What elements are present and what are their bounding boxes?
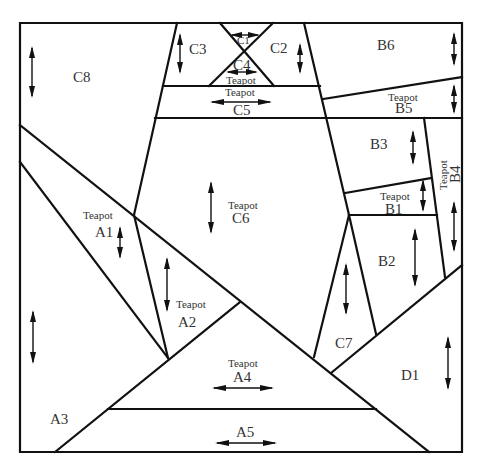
teapot-label-a4: Teapot <box>228 357 258 369</box>
piece-label-a2: A2 <box>178 314 196 330</box>
piece-label-b3: B3 <box>370 136 388 152</box>
piece-label-a3: A3 <box>50 411 68 427</box>
piece-label-c3: C3 <box>189 41 207 57</box>
grain-arrow-b4 <box>451 201 457 252</box>
teapot-label-c5: Teapot <box>225 86 255 98</box>
grain-arrow-d1 <box>445 336 451 390</box>
d1-top-edge <box>331 265 462 373</box>
teapot-label-a1: Teapot <box>83 209 113 221</box>
piece-label-c5: C5 <box>233 102 251 118</box>
piece-label-a5: A5 <box>236 424 254 440</box>
a3-a4-diagonal <box>55 302 240 452</box>
grain-arrow-a3 <box>30 310 36 364</box>
piece-label-c4: C4 <box>233 57 251 73</box>
piece-label-c6: C6 <box>232 210 250 226</box>
grain-arrow-a5 <box>215 440 277 446</box>
grain-arrow-b6 <box>451 32 457 66</box>
teapot-label-c4: Teapot <box>226 74 256 86</box>
piece-label-c2: C2 <box>270 40 288 56</box>
grain-arrow-c6 <box>208 181 214 234</box>
piece-label-a1: A1 <box>95 224 113 240</box>
piece-label-d1: D1 <box>401 367 419 383</box>
piece-label-b6: B6 <box>377 37 395 53</box>
a1-c6-diagonal <box>20 125 429 452</box>
grain-arrow-b5 <box>451 84 457 114</box>
grain-arrow-a4 <box>212 385 274 391</box>
grain-arrow-c8 <box>29 46 35 98</box>
piece-label-b1: B1 <box>385 201 403 217</box>
piece-label-c7: C7 <box>335 335 353 351</box>
grain-arrow-c3 <box>177 33 183 74</box>
piece-label-c8: C8 <box>73 69 91 85</box>
c7-right-edge <box>349 215 376 334</box>
grain-arrow-b3 <box>410 130 416 165</box>
piece-label-b5: B5 <box>395 100 413 116</box>
b4-left-edge <box>424 118 445 277</box>
grain-arrow-b2 <box>412 228 418 287</box>
cutting-diagram: C8 C3 C1 C2 C4 Teapot Teapot C5 Teapot C… <box>0 0 481 471</box>
piece-label-b4: B4 <box>447 165 463 183</box>
piece-label-b2: B2 <box>378 253 396 269</box>
piece-label-c1: C1 <box>237 34 250 46</box>
piece-label-a4: A4 <box>233 369 252 385</box>
grain-arrow-c7 <box>343 263 349 315</box>
grain-arrow-c2 <box>297 43 303 74</box>
grain-arrow-a1 <box>117 226 123 259</box>
grain-arrow-a2 <box>164 257 170 312</box>
teapot-label-a2: Teapot <box>176 298 206 310</box>
grain-arrow-b1 <box>420 179 426 212</box>
